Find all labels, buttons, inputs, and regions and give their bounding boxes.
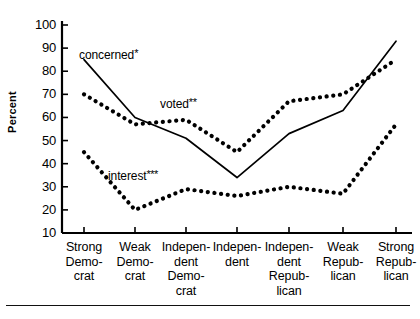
x-category-label-line: crat [153,284,219,299]
x-category-label: StrongRepub-lican [363,240,420,284]
x-category-label-line: Demo- [153,269,219,284]
x-category-label-line: lican [256,284,322,299]
x-axis-category-labels: StrongDemo-cratWeakDemo-cratIndepen-dent… [0,0,420,319]
series-label-interest: interest*** [108,169,158,183]
x-category-label-line: Repub- [363,255,420,270]
chart-figure: Percent 100908070605040302010 StrongDemo… [0,0,420,319]
x-category-label-line: Strong [363,240,420,255]
x-category-label-line: lican [363,269,420,284]
series-label-concerned: concerned* [79,48,138,62]
series-label-voted: voted** [160,97,196,111]
footer-divider [6,305,410,306]
